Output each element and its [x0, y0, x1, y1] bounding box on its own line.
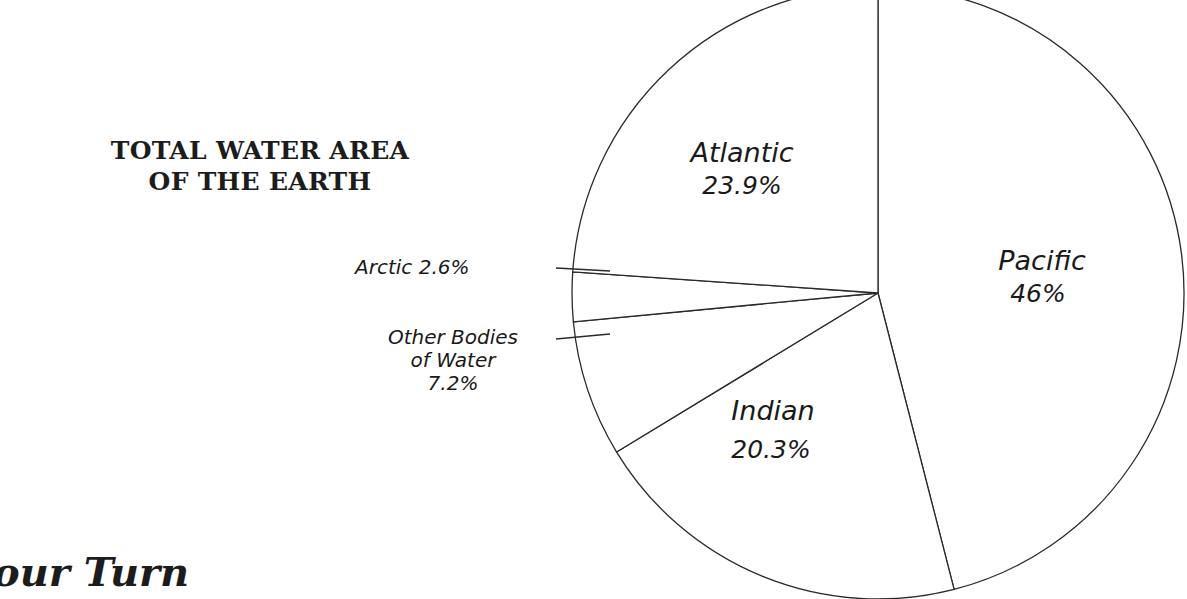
other-bodies-label: Other Bodies of Water 7.2%	[358, 326, 548, 395]
arctic-label-text: Arctic 2.6%	[355, 255, 469, 279]
atlantic-value: 23.9%	[702, 171, 781, 200]
pie-slices	[572, 0, 1184, 599]
pie-chart: Atlantic 23.9% Pacific 46% Indian 20.3%	[0, 0, 1187, 599]
pacific-value: 46%	[1010, 279, 1066, 308]
atlantic-label: Atlantic	[688, 137, 793, 168]
pacific-label: Pacific	[998, 245, 1086, 276]
other-bodies-line-2: of Water	[358, 349, 548, 372]
arctic-label: Arctic 2.6%	[355, 256, 469, 279]
other-bodies-line-1: Other Bodies	[358, 326, 548, 349]
indian-label: Indian	[731, 395, 814, 426]
other-bodies-value: 7.2%	[358, 372, 548, 395]
indian-value: 20.3%	[731, 435, 810, 464]
